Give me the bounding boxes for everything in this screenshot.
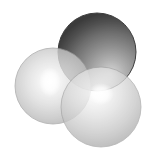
specular-highlight-bottom-right [88, 83, 114, 105]
sphere-light-bottom-right [61, 67, 141, 147]
specular-highlight-left [39, 67, 61, 97]
sphere-figure-canvas [0, 0, 159, 163]
sphere-figure-svg [0, 0, 159, 163]
